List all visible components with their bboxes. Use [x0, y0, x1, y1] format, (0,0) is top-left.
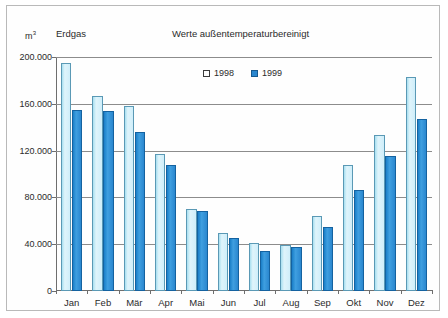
x-tick-mark	[56, 290, 57, 294]
y-tick-mark	[52, 151, 56, 152]
x-tick-mark	[338, 290, 339, 294]
y-tick-mark	[52, 244, 56, 245]
unit-base: m	[25, 31, 33, 41]
y-tick-label: 40.000	[24, 239, 52, 249]
y-tick-label: 120.000	[19, 146, 52, 156]
x-tick-mark	[401, 290, 402, 294]
x-axis-label-Jan: Jan	[64, 297, 79, 308]
bar-Sep-1998	[312, 216, 323, 291]
x-tick-mark	[244, 290, 245, 294]
bar-Okt-1998	[343, 165, 354, 291]
x-axis-label-Aug: Aug	[283, 297, 300, 308]
x-axis-label-Jul: Jul	[254, 297, 266, 308]
y-tick-label: 200.000	[19, 52, 52, 62]
y-tick-mark	[52, 104, 56, 105]
bar-Jun-1998	[218, 233, 229, 292]
bar-Mär-1998	[124, 106, 135, 291]
unit-exponent: 3	[33, 30, 37, 36]
x-tick-mark	[369, 290, 370, 294]
y-axis-unit-label: m3	[25, 30, 36, 41]
bar-Mai-1998	[186, 209, 197, 291]
bar-Jan-1998	[61, 63, 72, 291]
bar-Dez-1999	[417, 119, 428, 291]
bar-Feb-1998	[92, 96, 103, 291]
x-axis-label-Mär: Mär	[126, 297, 142, 308]
bar-Nov-1998	[374, 135, 385, 291]
bar-Okt-1999	[354, 190, 365, 291]
page-title: Werte außentemperaturbereinigt	[172, 28, 309, 39]
bar-Jun-1999	[229, 238, 240, 291]
y-axis-line	[56, 57, 57, 291]
bar-Jan-1999	[72, 110, 83, 291]
bar-Aug-1999	[291, 247, 302, 291]
bar-Apr-1998	[155, 154, 166, 291]
bar-Jul-1999	[260, 251, 271, 291]
x-axis-label-Dez: Dez	[408, 297, 425, 308]
x-tick-mark	[181, 290, 182, 294]
bar-Nov-1999	[385, 156, 396, 291]
bar-Sep-1999	[323, 227, 334, 291]
x-tick-mark	[119, 290, 120, 294]
y-tick-mark	[52, 57, 56, 58]
x-axis-label-Nov: Nov	[377, 297, 394, 308]
x-tick-mark	[213, 290, 214, 294]
x-tick-mark	[432, 290, 433, 294]
y-tick-mark	[52, 197, 56, 198]
x-axis-label-Okt: Okt	[346, 297, 361, 308]
y-tick-label: 160.000	[19, 99, 52, 109]
y-tick-label: 80.000	[24, 192, 52, 202]
bar-Aug-1998	[280, 245, 291, 291]
bar-Mär-1999	[135, 132, 146, 291]
bar-Jul-1998	[249, 243, 260, 291]
x-tick-mark	[150, 290, 151, 294]
bar-Mai-1999	[197, 211, 208, 291]
x-tick-mark	[275, 290, 276, 294]
x-axis-label-Sep: Sep	[314, 297, 331, 308]
y-axis-labels: 040.00080.000120.000160.000200.000	[7, 57, 52, 291]
x-axis-label-Feb: Feb	[95, 297, 111, 308]
bar-Dez-1998	[406, 77, 417, 291]
x-tick-mark	[307, 290, 308, 294]
bar-Apr-1999	[166, 165, 177, 291]
x-axis-label-Jun: Jun	[221, 297, 236, 308]
bar-Feb-1999	[103, 111, 114, 291]
x-axis-label-Mai: Mai	[189, 297, 204, 308]
chart-frame: m3 Erdgas Werte außentemperaturbereinigt…	[6, 5, 440, 311]
x-axis-label-Apr: Apr	[158, 297, 173, 308]
gridline	[56, 104, 432, 105]
plot-area: JanFebMärAprMaiJunJulAugSepOktNovDez	[56, 57, 432, 291]
gridline	[56, 57, 432, 58]
series-caption: Erdgas	[56, 28, 86, 39]
x-tick-mark	[87, 290, 88, 294]
